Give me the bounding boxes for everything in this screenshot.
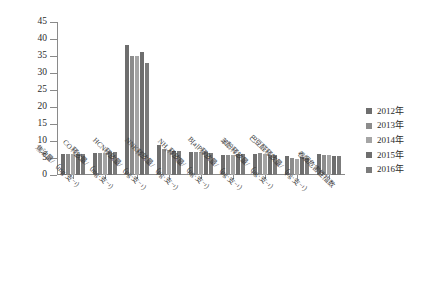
legend-item[interactable]: 2014年 (366, 133, 434, 148)
legend-swatch-icon (366, 123, 372, 129)
y-axis-tick-label: 20 (38, 102, 48, 112)
bar-chart: 051015202530354045 焦油量/（mg·支⁻¹）CO释放量/（mg… (0, 0, 436, 289)
x-axis-category-labels: 焦油量/（mg·支⁻¹）CO释放量/（mg·支⁻¹）HCN释放量/（μg·支⁻¹… (57, 178, 345, 286)
y-axis-tick (50, 56, 57, 57)
legend-swatch-icon (366, 152, 372, 158)
bar (327, 155, 332, 175)
y-axis-tick-label: 0 (42, 170, 47, 180)
legend-swatch-icon (366, 137, 372, 143)
y-axis-tick (50, 39, 57, 40)
legend-label: 2013年 (377, 121, 404, 130)
legend-label: 2012年 (377, 107, 404, 116)
bar-group (313, 22, 345, 175)
legend-item[interactable]: 2016年 (366, 162, 434, 177)
y-axis-tick-label: 40 (38, 34, 48, 44)
y-axis-tick (50, 90, 57, 91)
legend-swatch-icon (366, 108, 372, 114)
legend-label: 2015年 (377, 151, 404, 160)
y-axis-tick-label: 15 (38, 119, 48, 129)
y-axis-tick (50, 141, 57, 142)
bar (295, 159, 300, 175)
y-axis-tick (50, 124, 57, 125)
y-axis-tick (50, 22, 57, 23)
y-axis-tick-label: 35 (38, 51, 48, 61)
y-axis-tick-label: 30 (38, 68, 48, 78)
y-axis-tick (50, 73, 57, 74)
legend-item[interactable]: 2015年 (366, 148, 434, 163)
y-axis-tick (50, 107, 57, 108)
legend-label: 2014年 (377, 136, 404, 145)
bar (130, 56, 135, 175)
y-axis-tick-label: 45 (38, 17, 48, 27)
bar (125, 45, 130, 175)
chart-legend: 2012年2013年2014年2015年2016年 (366, 104, 434, 177)
legend-swatch-icon (366, 167, 372, 173)
y-axis-tick (50, 175, 57, 176)
legend-label: 2016年 (377, 165, 404, 174)
legend-item[interactable]: 2012年 (366, 104, 434, 119)
bar (337, 156, 342, 175)
legend-item[interactable]: 2013年 (366, 119, 434, 134)
y-axis-tick-label: 25 (38, 85, 48, 95)
bar (332, 156, 337, 175)
